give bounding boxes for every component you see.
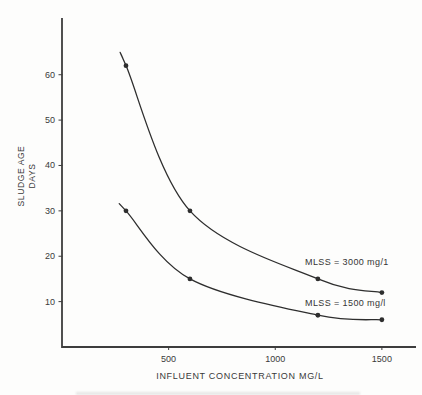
data-point-marker (379, 317, 384, 322)
data-point-marker (188, 208, 193, 213)
data-point-marker (379, 290, 384, 295)
y-tick-label: 30 (45, 206, 55, 216)
y-tick-label: 50 (45, 115, 55, 125)
data-point-marker (316, 277, 321, 282)
data-point-marker (316, 313, 321, 318)
y-axis-title: SLUDGE AGE DAYS (16, 116, 42, 236)
series-label-mlss-1500: MLSS = 1500 mg/l (305, 298, 386, 308)
x-tick-label: 1500 (372, 354, 392, 364)
y-tick-label: 40 (45, 160, 55, 170)
series-label-mlss-3000: MLSS = 3000 mg/1 (305, 257, 389, 267)
y-tick-label: 10 (45, 297, 55, 307)
y-tick-label: 20 (45, 251, 55, 261)
x-tick-label: 1000 (265, 354, 285, 364)
y-axis-title-line1: SLUDGE AGE (16, 146, 26, 207)
data-point-marker (188, 277, 193, 282)
data-point-marker (124, 63, 129, 68)
x-axis-title: INFLUENT CONCENTRATION MG/L (62, 371, 418, 381)
y-tick-label: 60 (45, 70, 55, 80)
x-tick-label: 500 (161, 354, 176, 364)
y-axis-title-line2: DAYS (27, 164, 37, 189)
chart-plot: 10203040506050010001500 (0, 0, 422, 395)
data-point-marker (124, 208, 129, 213)
chart-figure: 10203040506050010001500 SLUDGE AGE DAYS … (0, 0, 422, 395)
